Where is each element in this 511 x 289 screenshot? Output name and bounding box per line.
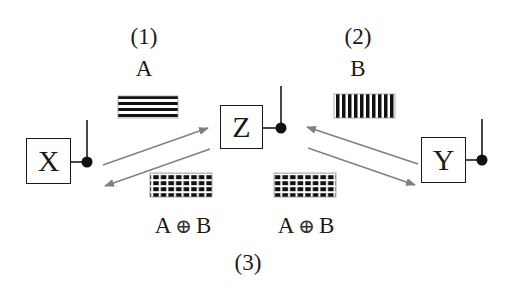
node-x: X bbox=[26, 138, 71, 184]
xor-left-b: B bbox=[196, 213, 211, 238]
xor-left-a: A bbox=[155, 213, 172, 238]
step-2-message: B bbox=[350, 57, 365, 80]
arrow-x-to-z bbox=[103, 128, 208, 165]
step-3-message-right: A⊕B bbox=[278, 214, 335, 237]
step-1-message: A bbox=[136, 57, 153, 80]
step-3-message-left: A⊕B bbox=[155, 214, 212, 237]
xor-operator-icon: ⊕ bbox=[294, 215, 319, 237]
arrow-y-to-z bbox=[307, 127, 418, 164]
packet-b-vertical-stripes-icon bbox=[334, 94, 395, 118]
xor-operator-icon: ⊕ bbox=[171, 215, 196, 237]
packet-a-horizontal-stripes-icon bbox=[118, 96, 178, 118]
step-3-number: (3) bbox=[235, 251, 262, 274]
packet-xor-left-grid-icon bbox=[150, 173, 212, 197]
packet-xor-right-grid-icon bbox=[274, 173, 336, 197]
xor-right-b: B bbox=[319, 213, 334, 238]
antenna-z-icon bbox=[262, 86, 287, 134]
node-y-label: Y bbox=[433, 143, 455, 177]
node-y: Y bbox=[421, 137, 466, 183]
node-z-label: Z bbox=[232, 110, 250, 144]
antenna-x-icon bbox=[70, 120, 93, 168]
step-1-number: (1) bbox=[131, 25, 158, 48]
step-2-number: (2) bbox=[345, 25, 372, 48]
node-z: Z bbox=[220, 105, 263, 149]
antenna-y-icon bbox=[465, 119, 488, 166]
xor-right-a: A bbox=[278, 213, 295, 238]
node-x-label: X bbox=[38, 144, 60, 178]
